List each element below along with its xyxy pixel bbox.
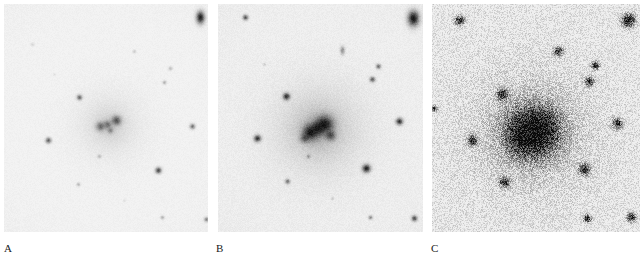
plate-image-b <box>218 4 423 232</box>
panel-label-b: B <box>216 243 224 254</box>
plate-image-a <box>4 4 208 232</box>
panel-b <box>218 4 423 232</box>
plate-canvas-b <box>218 4 423 232</box>
plate-canvas-c <box>432 4 640 232</box>
plate-canvas-a <box>4 4 208 232</box>
figure-astronomical-plates: A B C <box>0 0 643 264</box>
panel-label-a: A <box>4 243 12 254</box>
panel-c <box>432 4 640 232</box>
plate-image-c <box>432 4 640 232</box>
panel-a <box>4 4 208 232</box>
panel-label-c: C <box>431 243 439 254</box>
